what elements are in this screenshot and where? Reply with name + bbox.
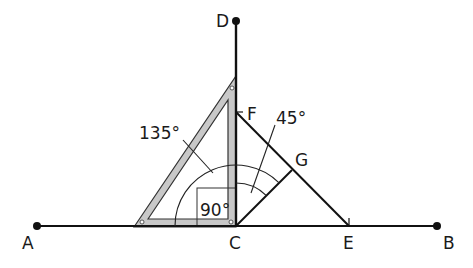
label-b: B — [443, 233, 455, 253]
set-square-rivet — [229, 220, 233, 224]
label-d: D — [216, 11, 229, 31]
point-b-dot — [433, 222, 441, 230]
angle-label-90: 90° — [200, 200, 230, 220]
label-g: G — [295, 150, 308, 170]
arc-45 — [236, 183, 266, 196]
point-a-dot — [33, 222, 41, 230]
point-d-dot — [232, 17, 240, 25]
set-square-rivet — [140, 220, 144, 224]
label-c: C — [229, 233, 241, 253]
angle-label-135: 135° — [139, 123, 180, 143]
angle-label-45: 45° — [276, 108, 306, 128]
geometry-diagram: A B C D E F G 135° 90° 45° — [0, 0, 473, 268]
label-f: F — [247, 104, 257, 124]
set-square-rivet — [230, 86, 234, 90]
leader-45 — [251, 125, 275, 193]
label-a: A — [22, 233, 34, 253]
line-cg — [236, 170, 292, 226]
label-e: E — [343, 233, 354, 253]
